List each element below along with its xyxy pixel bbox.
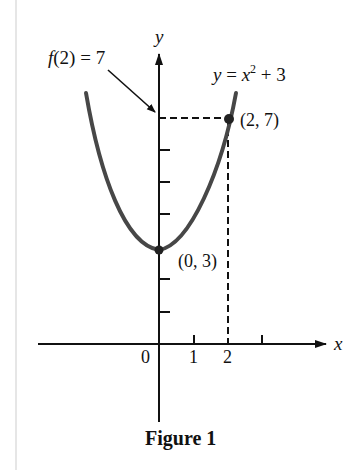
x-tick-label-2: 2 — [223, 347, 232, 367]
point-label-0-3: (0, 3) — [178, 251, 217, 272]
x-axis-label: x — [333, 333, 343, 354]
point-vertex — [155, 246, 164, 255]
y-ticks — [159, 150, 170, 312]
annotation-arrow — [108, 70, 155, 112]
figure-caption: Figure 1 — [145, 427, 216, 450]
x-tick-label-1: 1 — [189, 347, 198, 367]
y-axis-label: y — [153, 26, 164, 47]
x-tick-label-0: 0 — [141, 347, 150, 367]
point-label-2-7: (2, 7) — [240, 110, 279, 131]
parabola-curve — [86, 93, 236, 250]
function-label: y = x2 + 3 — [211, 62, 286, 85]
annotation-label: f(2) = 7 — [48, 47, 105, 69]
figure-graph: f(2) = 7 y x y = x2 + 3 (2, 7) (0, 3) 0 … — [0, 0, 361, 470]
point-2-7 — [224, 114, 234, 124]
